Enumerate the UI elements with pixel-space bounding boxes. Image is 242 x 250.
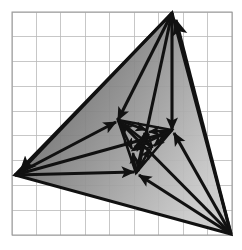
figure-container bbox=[0, 0, 242, 250]
triangle-diagram-svg bbox=[0, 0, 242, 250]
fixed-point-marker bbox=[142, 141, 145, 144]
